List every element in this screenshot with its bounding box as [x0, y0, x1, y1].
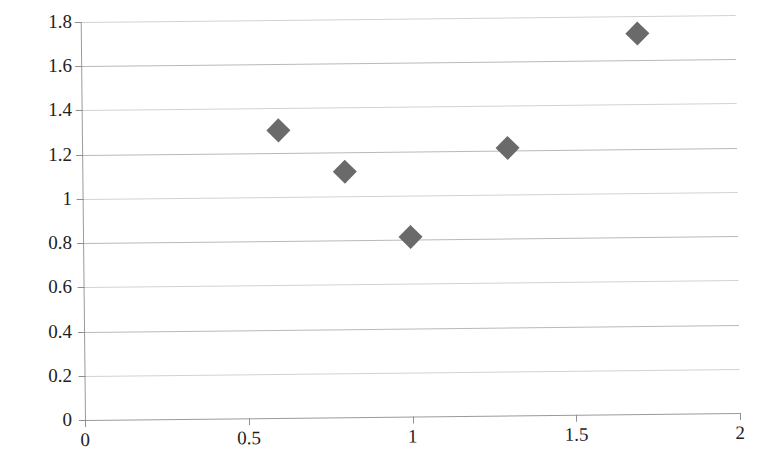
y-tick-0.4	[78, 332, 85, 333]
y-tick-label-0.8: 0.8	[10, 233, 72, 252]
y-axis-ticks	[0, 0, 772, 1]
x-tick-1	[412, 416, 413, 423]
gridline-y-0.6	[84, 280, 739, 288]
y-tick-label-1: 1	[10, 189, 72, 208]
x-tick-0.5	[249, 418, 250, 425]
y-tick-1.6	[75, 66, 82, 67]
data-point-marker	[266, 118, 290, 142]
x-axis-ticks	[0, 0, 772, 1]
y-axis-tick-labels: 00.20.40.60.811.21.41.61.8	[0, 0, 72, 476]
y-tick-label-0.6: 0.6	[10, 277, 72, 296]
data-point-marker	[626, 22, 650, 46]
y-tick-1.4	[76, 110, 83, 111]
gridline-y-0.4	[84, 324, 739, 332]
y-tick-0.8	[77, 243, 84, 244]
x-tick-label-2: 2	[705, 423, 775, 443]
y-tick-1.2	[76, 155, 83, 156]
x-tick-label-0.5: 0.5	[214, 428, 284, 448]
x-tick-label-1: 1	[378, 426, 448, 446]
y-tick-label-0: 0	[10, 410, 72, 429]
y-axis-line	[81, 22, 86, 421]
gridline-y-1.4	[82, 103, 737, 111]
data-markers-group	[0, 0, 772, 1]
y-tick-label-0.2: 0.2	[10, 366, 72, 385]
y-tick-1	[77, 199, 84, 200]
x-axis-tick-labels: 00.511.52	[0, 0, 772, 1]
y-tick-label-1.6: 1.6	[10, 56, 72, 75]
x-tick-2	[740, 413, 741, 420]
gridline-y-1.2	[82, 148, 737, 156]
gridline-y-0.2	[85, 369, 740, 377]
data-point-marker	[399, 225, 423, 249]
x-tick-0	[85, 420, 86, 427]
y-tick-0.2	[79, 376, 86, 377]
y-tick-label-1.8: 1.8	[10, 12, 72, 31]
plot-skew-layer: 00.511.52	[0, 0, 777, 476]
gridline-y-1.6	[81, 59, 736, 67]
gridlines-group	[0, 0, 772, 1]
y-tick-label-1.4: 1.4	[10, 100, 72, 119]
y-tick-label-0.4: 0.4	[10, 322, 72, 341]
y-tick-1.8	[75, 22, 82, 23]
y-tick-0.6	[78, 287, 85, 288]
y-tick-label-1.2: 1.2	[10, 145, 72, 164]
scatter-chart: 00.511.52 00.20.40.60.811.21.41.61.8	[0, 0, 777, 476]
x-tick-label-1.5: 1.5	[541, 424, 611, 444]
data-point-marker	[332, 160, 356, 184]
data-point-marker	[496, 136, 520, 160]
x-tick-1.5	[576, 415, 577, 422]
gridline-y-1	[83, 192, 738, 200]
